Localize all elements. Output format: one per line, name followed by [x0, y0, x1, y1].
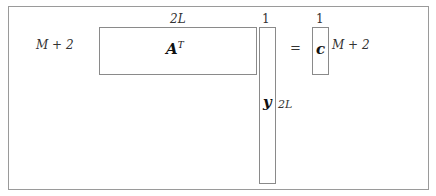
vector-y-cols-label: 1 [262, 12, 270, 26]
matrix-a-rows-label: M + 2 [36, 38, 74, 52]
vector-y-symbol: y [263, 93, 272, 111]
equals-sign: = [290, 40, 301, 55]
vector-y-rows-label: 2L [278, 98, 292, 111]
vector-y: y [259, 27, 276, 184]
vector-c-cols-label: 1 [316, 12, 324, 26]
matrix-a-cols-label: 2L [170, 12, 186, 26]
matrix-a-transpose: AT [99, 27, 257, 75]
matrix-a-symbol: AT [166, 40, 184, 58]
vector-c: c [312, 27, 329, 75]
vector-c-rows-label: M + 2 [332, 38, 370, 52]
vector-c-symbol: c [316, 40, 325, 58]
